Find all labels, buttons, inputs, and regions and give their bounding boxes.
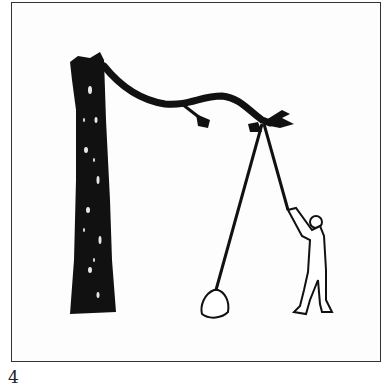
tree-trunk xyxy=(70,52,116,314)
rope xyxy=(216,124,288,290)
pine-tufts xyxy=(196,110,294,132)
bag xyxy=(202,290,229,318)
figure-number: 4 xyxy=(8,367,19,387)
person xyxy=(288,208,332,314)
branch xyxy=(104,66,270,123)
illustration xyxy=(0,0,388,389)
